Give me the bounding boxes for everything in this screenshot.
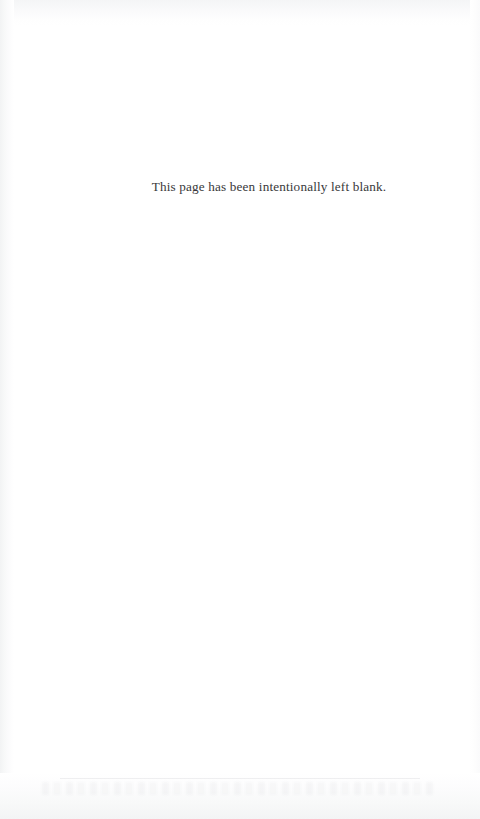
- blank-page-notice: This page has been intentionally left bl…: [0, 178, 480, 195]
- scan-gradient-right: [470, 0, 480, 819]
- bleed-through-text-artifact: [42, 782, 434, 795]
- scan-gradient-left: [0, 0, 14, 819]
- bleed-through-rule: [60, 778, 420, 779]
- scan-gradient-bottom: [0, 773, 480, 819]
- scanned-page: This page has been intentionally left bl…: [0, 0, 480, 819]
- scan-gradient-top: [0, 0, 480, 26]
